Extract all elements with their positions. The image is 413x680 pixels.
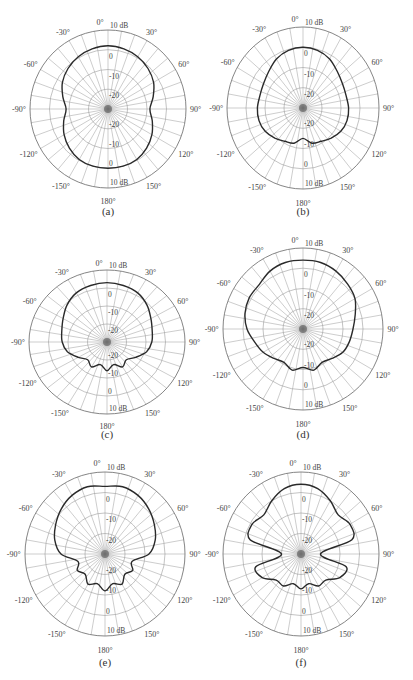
svg-text:10 dB: 10 dB: [109, 404, 127, 413]
svg-text:0°: 0°: [95, 259, 102, 268]
svg-text:30°: 30°: [146, 28, 157, 37]
svg-text:10 dB: 10 dB: [110, 178, 128, 187]
svg-text:60°: 60°: [371, 504, 382, 513]
svg-text:-10: -10: [304, 291, 314, 300]
svg-text:-20: -20: [109, 91, 119, 100]
svg-text:10 dB: 10 dB: [107, 463, 125, 472]
svg-text:-10: -10: [109, 140, 119, 149]
svg-text:-150°: -150°: [52, 182, 70, 191]
svg-text:-20: -20: [304, 311, 314, 320]
svg-text:90°: 90°: [387, 325, 398, 334]
svg-text:90°: 90°: [383, 550, 394, 559]
svg-text:-120°: -120°: [20, 150, 38, 159]
svg-text:0: 0: [106, 607, 110, 616]
svg-text:-90°: -90°: [209, 104, 223, 113]
svg-text:-90°: -90°: [205, 550, 219, 559]
svg-text:-60°: -60°: [19, 504, 33, 513]
svg-text:180°: 180°: [97, 646, 112, 655]
svg-text:0°: 0°: [291, 236, 298, 245]
svg-text:-30°: -30°: [52, 470, 66, 479]
svg-text:-20: -20: [108, 351, 118, 360]
svg-text:0: 0: [109, 52, 113, 61]
svg-text:30°: 30°: [340, 25, 351, 34]
caption-d: (d): [283, 428, 323, 440]
svg-text:0: 0: [302, 607, 306, 616]
svg-text:-20: -20: [109, 120, 119, 129]
svg-text:-60°: -60°: [24, 60, 38, 69]
svg-text:-30°: -30°: [56, 28, 70, 37]
svg-text:30°: 30°: [342, 246, 353, 255]
polar-plot-a: 10 dB10 dB00-10-10-20-200°30°60°90°120°1…: [12, 18, 201, 207]
svg-text:-10: -10: [106, 515, 116, 524]
svg-text:60°: 60°: [178, 60, 189, 69]
svg-text:60°: 60°: [177, 504, 188, 513]
svg-text:90°: 90°: [190, 105, 201, 114]
svg-text:-10: -10: [109, 72, 119, 81]
polar-plot-b: 10 dB10 dB00-10-10-20-200°30°60°90°120°1…: [209, 15, 394, 208]
svg-text:60°: 60°: [177, 297, 188, 306]
svg-text:-20: -20: [302, 566, 312, 575]
svg-text:150°: 150°: [144, 630, 159, 639]
svg-text:-120°: -120°: [19, 379, 37, 388]
svg-text:120°: 120°: [178, 150, 193, 159]
svg-text:-150°: -150°: [248, 183, 266, 192]
svg-text:-20: -20: [302, 536, 312, 545]
svg-text:-20: -20: [106, 536, 116, 545]
caption-a: (a): [88, 205, 128, 217]
svg-text:10 dB: 10 dB: [305, 18, 323, 27]
svg-text:-60°: -60°: [23, 297, 37, 306]
svg-text:-150°: -150°: [51, 409, 69, 418]
caption-f: (f): [281, 656, 321, 668]
svg-text:0: 0: [108, 387, 112, 396]
svg-text:-20: -20: [106, 566, 116, 575]
svg-text:10 dB: 10 dB: [303, 463, 321, 472]
svg-text:-10: -10: [302, 515, 312, 524]
svg-text:0: 0: [304, 49, 308, 58]
svg-text:0: 0: [106, 495, 110, 504]
polar-plot-c: 10 dB10 dB00-10-10-20-200°30°60°90°120°1…: [11, 259, 200, 432]
svg-text:120°: 120°: [177, 379, 192, 388]
pattern-curve-d: [245, 260, 356, 370]
svg-text:10 dB: 10 dB: [303, 626, 321, 635]
svg-text:120°: 120°: [177, 596, 192, 605]
svg-text:0: 0: [304, 160, 308, 169]
svg-text:0: 0: [304, 381, 308, 390]
svg-text:-30°: -30°: [250, 246, 264, 255]
svg-text:-60°: -60°: [217, 504, 231, 513]
svg-text:150°: 150°: [145, 409, 160, 418]
svg-text:-20: -20: [304, 340, 314, 349]
svg-text:-30°: -30°: [249, 470, 263, 479]
svg-text:0: 0: [108, 290, 112, 299]
svg-text:-120°: -120°: [217, 150, 235, 159]
svg-text:-30°: -30°: [55, 268, 69, 277]
svg-text:-90°: -90°: [7, 550, 21, 559]
svg-text:10 dB: 10 dB: [107, 626, 125, 635]
svg-text:150°: 150°: [339, 630, 354, 639]
polar-plot-e: 10 dB10 dB00-10-10-20-200°30°60°90°120°1…: [7, 459, 201, 654]
svg-text:-20: -20: [304, 90, 314, 99]
svg-text:-10: -10: [108, 369, 118, 378]
svg-text:-120°: -120°: [15, 596, 33, 605]
svg-text:0°: 0°: [289, 459, 296, 468]
svg-text:0: 0: [304, 270, 308, 279]
svg-text:60°: 60°: [375, 279, 386, 288]
svg-text:-30°: -30°: [252, 25, 266, 34]
svg-text:60°: 60°: [371, 58, 382, 67]
svg-text:150°: 150°: [340, 183, 355, 192]
caption-b: (b): [283, 205, 323, 217]
svg-text:-20: -20: [304, 119, 314, 128]
svg-text:-10: -10: [304, 70, 314, 79]
svg-text:30°: 30°: [339, 470, 350, 479]
svg-text:90°: 90°: [189, 550, 200, 559]
svg-text:30°: 30°: [144, 470, 155, 479]
svg-text:0: 0: [302, 495, 306, 504]
svg-text:-10: -10: [304, 140, 314, 149]
svg-text:-20: -20: [108, 326, 118, 335]
svg-text:-90°: -90°: [12, 105, 26, 114]
svg-text:10 dB: 10 dB: [305, 400, 323, 409]
svg-text:0: 0: [109, 159, 113, 168]
svg-text:90°: 90°: [383, 104, 394, 113]
svg-text:180°: 180°: [293, 646, 308, 655]
polar-plot-f: 10 dB10 dB00-10-10-20-200°30°60°90°120°1…: [205, 459, 394, 654]
svg-text:-90°: -90°: [205, 325, 219, 334]
